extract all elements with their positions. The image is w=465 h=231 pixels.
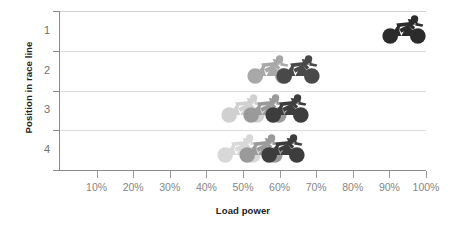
y-axis-tick	[53, 11, 60, 12]
y-axis-tick	[53, 51, 60, 52]
x-axis-tick	[426, 171, 427, 178]
x-axis-tick	[389, 171, 390, 178]
x-axis-tick	[316, 171, 317, 178]
x-axis-tick	[97, 171, 98, 178]
y-axis-tick	[53, 91, 60, 92]
x-axis-tick	[353, 171, 354, 178]
cyclist-marker	[275, 55, 321, 85]
x-axis-tick	[206, 171, 207, 178]
x-axis-tick-label: 100%	[406, 181, 446, 193]
x-axis-tick	[243, 171, 244, 178]
x-axis-tick	[133, 171, 134, 178]
cyclist-marker	[264, 94, 310, 124]
y-axis-tick-label: 3	[30, 103, 50, 115]
y-axis-tick-label: 4	[30, 143, 50, 155]
cyclist-marker	[381, 15, 427, 45]
x-axis-tick-label: 70%	[296, 181, 336, 193]
cyclist-marker	[260, 134, 306, 164]
x-axis-title: Load power	[60, 205, 426, 216]
x-axis-tick-label: 40%	[186, 181, 226, 193]
y-axis-tick	[53, 170, 60, 171]
x-axis-tick-label: 30%	[150, 181, 190, 193]
y-axis-tick	[53, 130, 60, 131]
gridline	[60, 11, 426, 12]
gridline	[60, 130, 426, 131]
x-axis-tick-label: 60%	[260, 181, 300, 193]
y-axis-tick-label: 1	[30, 24, 50, 36]
x-axis-tick-label: 90%	[369, 181, 409, 193]
x-axis-tick-label: 10%	[77, 181, 117, 193]
x-axis-tick	[280, 171, 281, 178]
gridline	[60, 51, 426, 52]
x-axis-tick-label: 50%	[223, 181, 263, 193]
x-axis-tick-label: 20%	[113, 181, 153, 193]
x-axis-tick	[170, 171, 171, 178]
x-axis-tick-label: 80%	[333, 181, 373, 193]
gridline	[60, 91, 426, 92]
cyclist-position-chart: Position in race line 1234 10%20%30%40%5…	[0, 0, 465, 231]
y-axis-tick-label: 2	[30, 64, 50, 76]
